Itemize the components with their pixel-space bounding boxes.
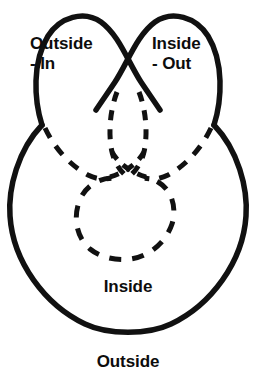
neck-tube-right-dashed [132, 92, 146, 174]
label-outside-in-line1: Outside [30, 34, 93, 54]
body-outline-solid [10, 125, 246, 332]
label-outside-in: Outside - In [30, 34, 93, 74]
label-outside: Outside [0, 352, 256, 372]
figure-root: Outside - In Inside - Out Inside Outside [0, 0, 256, 373]
label-outside-in-line2: - In [30, 54, 93, 74]
label-inside-out-line2: - Out [152, 54, 201, 74]
label-inside-out: Inside - Out [152, 34, 201, 74]
right-cusp-to-inner-dashed [145, 128, 211, 179]
inner-circle-dashed [76, 178, 174, 260]
label-inside: Inside [0, 277, 256, 297]
label-inside-out-line1: Inside [152, 34, 201, 54]
neck-tube-left-dashed [110, 92, 124, 174]
left-cusp-to-inner-dashed [45, 128, 111, 179]
